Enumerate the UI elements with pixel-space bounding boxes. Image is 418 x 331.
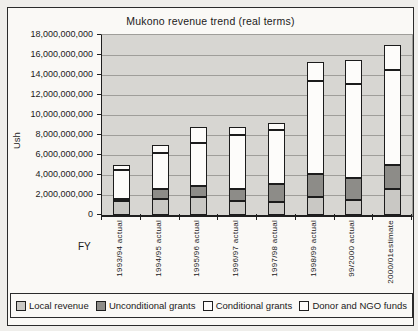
chart-figure: Mukono revenue trend (real terms) Ush 18… — [7, 7, 414, 326]
y-tick-label: 14,000,000,000 — [9, 68, 93, 80]
bar-segment — [345, 60, 362, 84]
x-category-label: 1994/95 actual — [154, 220, 164, 277]
bar-segment — [229, 189, 246, 201]
plot-area — [101, 34, 413, 217]
bar-segment — [190, 127, 207, 143]
legend-swatch — [96, 301, 106, 311]
x-axis-title: FY — [78, 241, 91, 252]
stacked-bar — [152, 35, 169, 215]
y-tick-mark — [97, 174, 101, 175]
bar-segment — [190, 197, 207, 215]
y-tick-mark — [97, 34, 101, 35]
gridline — [102, 135, 412, 136]
bar-segment — [307, 197, 324, 215]
bar-segment — [229, 127, 246, 135]
y-tick-mark — [97, 74, 101, 75]
stacked-bar — [384, 35, 401, 215]
legend-label: Donor and NGO funds — [312, 300, 407, 311]
y-tick-label: 0 — [9, 208, 93, 220]
legend-item: Conditional grants — [203, 300, 293, 311]
stacked-bar — [229, 35, 246, 215]
bar-segment — [152, 189, 169, 199]
y-tick-mark — [97, 114, 101, 115]
stacked-bar — [190, 35, 207, 215]
y-tick-mark — [97, 54, 101, 55]
x-tick-mark — [411, 214, 412, 220]
bar-segment — [190, 186, 207, 197]
bar-segment — [268, 130, 285, 184]
bar-segment — [152, 145, 169, 153]
y-tick-mark — [97, 194, 101, 195]
y-tick-label: 6,000,000,000 — [9, 148, 93, 160]
gridline — [102, 95, 412, 96]
x-category-label: 1997/98 actual — [270, 220, 280, 277]
bar-segment — [384, 45, 401, 70]
bar-segment — [268, 202, 285, 215]
legend-swatch — [203, 301, 213, 311]
x-category-label: 1993/94 actual — [115, 220, 125, 277]
x-axis-category-labels: 1993/94 actual1994/95 actual1995/96 actu… — [101, 220, 411, 298]
x-category-label: 2000/01estimate — [386, 220, 396, 284]
bar-segment — [268, 123, 285, 130]
legend-label: Unconditional grants — [109, 300, 196, 311]
x-category-label: 99/2000 actual — [347, 220, 357, 277]
legend-box: Local revenueUnconditional grantsConditi… — [10, 293, 413, 318]
gridline — [102, 175, 412, 176]
bar-segment — [113, 199, 130, 201]
bar-segment — [345, 178, 362, 200]
stacked-bar — [307, 35, 324, 215]
legend-item: Unconditional grants — [96, 300, 196, 311]
bar-segment — [152, 153, 169, 189]
y-tick-mark — [97, 154, 101, 155]
y-tick-label: 10,000,000,000 — [9, 108, 93, 120]
bar-segment — [345, 84, 362, 178]
x-category-label: 1996/97 actual — [231, 220, 241, 277]
y-tick-label: 4,000,000,000 — [9, 168, 93, 180]
gridline — [102, 75, 412, 76]
bar-segment — [190, 143, 207, 186]
bar-segment — [384, 189, 401, 215]
bar-segment — [384, 165, 401, 189]
bar-segment — [345, 200, 362, 215]
stacked-bar — [345, 35, 362, 215]
legend-label: Conditional grants — [216, 300, 293, 311]
y-tick-label: 2,000,000,000 — [9, 188, 93, 200]
bar-segment — [113, 201, 130, 215]
screenshot-root: { "title": "Mukono revenue trend (real t… — [0, 0, 418, 331]
gridline — [102, 195, 412, 196]
bar-segment — [229, 201, 246, 215]
legend-item: Local revenue — [16, 300, 89, 311]
chart-title: Mukono revenue trend (real terms) — [8, 15, 413, 27]
gridline — [102, 55, 412, 56]
gridline — [102, 115, 412, 116]
y-tick-label: 18,000,000,000 — [9, 28, 93, 40]
legend-label: Local revenue — [29, 300, 89, 311]
bar-segment — [307, 174, 324, 197]
y-tick-mark — [97, 134, 101, 135]
bar-segment — [307, 62, 324, 81]
legend-swatch — [299, 301, 309, 311]
y-tick-label: 16,000,000,000 — [9, 48, 93, 60]
y-tick-label: 8,000,000,000 — [9, 128, 93, 140]
bar-segment — [229, 135, 246, 189]
bar-segment — [113, 165, 130, 170]
y-tick-mark — [97, 94, 101, 95]
gridline — [102, 155, 412, 156]
stacked-bar — [113, 35, 130, 215]
bar-segment — [152, 199, 169, 215]
legend-swatch — [16, 301, 26, 311]
bar-segment — [268, 184, 285, 202]
x-category-label: 1995/96 actual — [192, 220, 202, 277]
bar-segment — [384, 70, 401, 165]
bar-segment — [307, 81, 324, 174]
bar-segment — [113, 170, 130, 199]
x-category-label: 1998/99 actual — [309, 220, 319, 277]
stacked-bar — [268, 35, 285, 215]
y-tick-label: 12,000,000,000 — [9, 88, 93, 100]
legend-item: Donor and NGO funds — [299, 300, 407, 311]
